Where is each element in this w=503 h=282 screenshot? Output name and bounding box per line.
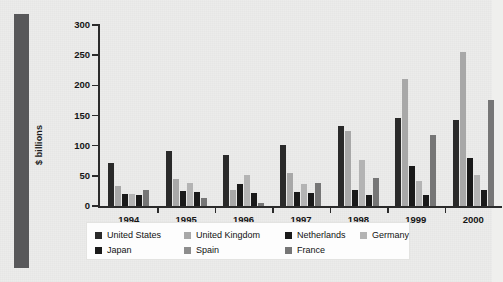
bar-1996-france	[258, 203, 264, 206]
legend-swatch-icon	[360, 232, 367, 239]
y-tick-label-150: 150	[44, 111, 90, 120]
legend-label: France	[297, 246, 325, 255]
legend-label: United Kingdom	[196, 231, 260, 240]
bar-1994-netherlands	[122, 194, 128, 206]
bar-2000-germany	[474, 175, 480, 206]
bar-1997-germany	[301, 184, 307, 206]
bar-group-1997	[272, 25, 329, 206]
plot-bars	[100, 25, 502, 206]
legend-item-united-states: United States	[95, 231, 184, 240]
y-tick-label-50: 50	[44, 171, 90, 180]
bar-1998-germany	[359, 160, 365, 206]
bar-group-1999	[387, 25, 444, 206]
legend-label: United States	[107, 231, 161, 240]
y-tick-label-200: 200	[44, 80, 90, 89]
bar-2000-france	[488, 100, 494, 206]
legend-swatch-icon	[285, 247, 292, 254]
bar-1996-germany	[244, 175, 250, 206]
bar-1999-japan	[423, 195, 429, 206]
bar-1996-united-states	[223, 155, 229, 206]
legend-item-france: France	[285, 246, 360, 255]
bar-1999-united-kingdom	[402, 79, 408, 206]
y-tick-label-250: 250	[44, 50, 90, 59]
bar-1994-united-kingdom	[115, 186, 121, 206]
bar-1995-united-kingdom	[173, 179, 179, 206]
bar-1994-france	[143, 190, 149, 206]
x-tick-sep-1	[157, 207, 159, 213]
bar-1997-netherlands	[294, 192, 300, 206]
y-axis-tick-labels: 050100150200250300	[36, 14, 90, 214]
legend-label: Netherlands	[297, 231, 346, 240]
bar-1997-france	[315, 183, 321, 206]
bar-2000-netherlands	[467, 158, 473, 206]
x-tick-sep-5	[387, 207, 389, 213]
bar-1999-netherlands	[409, 166, 415, 206]
legend-item-germany: Germany	[360, 231, 409, 240]
y-tick-label-300: 300	[44, 20, 90, 29]
bar-group-1996	[215, 25, 272, 206]
bar-group-1995	[157, 25, 214, 206]
x-tick-sep-4	[330, 207, 332, 213]
bar-1995-france	[201, 198, 207, 206]
chart-legend: United StatesUnited KingdomNetherlandsGe…	[86, 222, 410, 260]
bar-1999-france	[430, 135, 436, 206]
x-tick-sep-3	[272, 207, 274, 213]
bar-1998-united-kingdom	[345, 131, 351, 206]
legend-label: Japan	[107, 246, 132, 255]
legend-swatch-icon	[184, 232, 191, 239]
bar-1995-japan	[194, 192, 200, 206]
x-tick-sep-6	[445, 207, 447, 213]
bar-1997-united-states	[280, 145, 286, 206]
bar-1994-united-states	[108, 163, 114, 206]
legend-item-japan: Japan	[95, 246, 184, 255]
bar-1994-germany	[129, 194, 135, 206]
y-tick-label-100: 100	[44, 141, 90, 150]
legend-swatch-icon	[285, 232, 292, 239]
y-tick-label-0: 0	[44, 201, 90, 210]
bar-1995-germany	[187, 183, 193, 206]
legend-label: Spain	[196, 246, 219, 255]
bar-1997-united-kingdom	[287, 173, 293, 206]
bar-1998-netherlands	[352, 190, 358, 206]
bar-2000-united-states	[453, 120, 459, 206]
left-spine-band	[14, 14, 29, 268]
legend-item-netherlands: Netherlands	[285, 231, 360, 240]
legend-item-spain: Spain	[184, 246, 285, 255]
x-tick-sep-2	[215, 207, 217, 213]
bar-2000-united-kingdom	[460, 52, 466, 206]
bar-1995-united-states	[166, 151, 172, 207]
bar-1998-united-states	[338, 126, 344, 206]
bar-1998-japan	[366, 195, 372, 206]
bar-group-1994	[100, 25, 157, 206]
legend-label: Germany	[372, 231, 409, 240]
bar-1999-germany	[416, 181, 422, 206]
bar-1996-japan	[251, 193, 257, 206]
bar-group-1998	[330, 25, 387, 206]
legend-swatch-icon	[95, 232, 102, 239]
legend-item-united-kingdom: United Kingdom	[184, 231, 285, 240]
legend-row-1: United StatesUnited KingdomNetherlandsGe…	[95, 228, 409, 243]
bar-1996-united-kingdom	[230, 190, 236, 206]
legend-row-2: JapanSpainFrance	[95, 243, 409, 258]
bar-group-2000	[445, 25, 502, 206]
bar-1997-japan	[308, 193, 314, 206]
legend-swatch-icon	[184, 247, 191, 254]
bar-1995-netherlands	[180, 191, 186, 206]
legend-swatch-icon	[95, 247, 102, 254]
bar-1999-united-states	[395, 118, 401, 206]
x-axis-label-2000: 2000	[443, 214, 503, 225]
bar-1994-japan	[136, 195, 142, 206]
bar-1996-netherlands	[237, 184, 243, 206]
bar-2000-japan	[481, 190, 487, 206]
bar-1998-france	[373, 178, 379, 206]
